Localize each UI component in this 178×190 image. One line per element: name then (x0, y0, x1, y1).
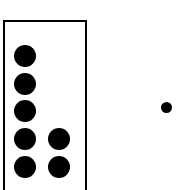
diagram-canvas (0, 0, 178, 190)
grouped-dot (14, 156, 36, 178)
grouped-dot (48, 156, 70, 178)
grouped-dot (14, 73, 36, 95)
grouped-dot (14, 100, 36, 122)
grouped-dot (14, 128, 36, 150)
grouped-dot (14, 45, 36, 67)
single-dot-outside-group (161, 102, 172, 113)
grouped-dot (48, 128, 70, 150)
